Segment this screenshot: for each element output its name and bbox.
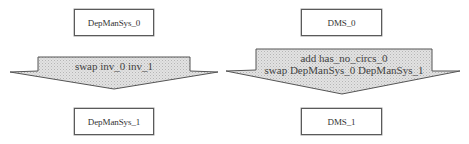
transition-line: swap inv_0 inv_1 (38, 60, 190, 72)
state-label: DMS_0 (327, 18, 355, 28)
state-box-depmansys-1: DepManSys_1 (74, 108, 154, 135)
state-label: DepManSys_0 (88, 18, 140, 28)
state-label: DMS_1 (327, 117, 355, 127)
transition-line: swap DepManSys_0 DepManSys_1 (256, 64, 432, 76)
transition-line: add has_no_circs_0 (256, 52, 432, 64)
state-box-depmansys-0: DepManSys_0 (74, 9, 154, 36)
right-transition-label: add has_no_circs_0 swap DepManSys_0 DepM… (256, 52, 432, 76)
state-box-dms-0: DMS_0 (301, 9, 382, 36)
state-label: DepManSys_1 (88, 117, 140, 127)
left-transition-label: swap inv_0 inv_1 (38, 60, 190, 72)
state-box-dms-1: DMS_1 (301, 108, 382, 135)
